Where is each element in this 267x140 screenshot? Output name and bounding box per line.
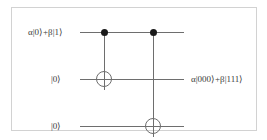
qubit-wire-q0 xyxy=(80,32,184,33)
quantum-circuit-figure: α|0⟩+β|1⟩ |0⟩ |0⟩ α|000⟩+β|111⟩ xyxy=(0,0,267,140)
circuit-output-label: α|000⟩+β|111⟩ xyxy=(191,75,243,84)
qubit-q2-input-label: |0⟩ xyxy=(51,122,61,131)
qubit-q1-input-label: |0⟩ xyxy=(51,75,61,84)
cnot1-target-circle-icon xyxy=(96,71,112,87)
circuit-frame: α|0⟩+β|1⟩ |0⟩ |0⟩ α|000⟩+β|111⟩ xyxy=(11,7,257,131)
cnot2-control-link xyxy=(153,32,154,126)
qubit-q0-input-label: α|0⟩+β|1⟩ xyxy=(28,28,63,37)
qubit-wire-q2 xyxy=(80,126,184,127)
cnot1-control-dot-icon xyxy=(101,29,108,36)
cnot2-control-dot-icon xyxy=(150,29,157,36)
cnot2-target-circle-icon xyxy=(145,118,161,134)
